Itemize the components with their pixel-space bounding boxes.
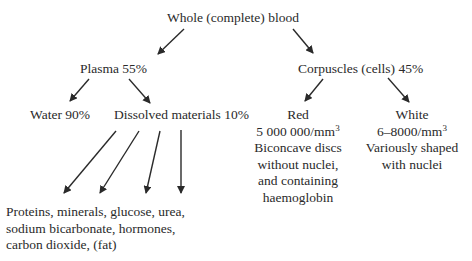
node-corpuscles: Corpuscles (cells) 45% (298, 61, 423, 78)
red-desc: haemoglobin (248, 190, 348, 207)
node-red: Red 5 000 000/mm3 Biconcave discs withou… (248, 107, 348, 206)
red-count: 5 000 000/mm3 (248, 124, 348, 141)
node-dissolved: Dissolved materials 10% (114, 107, 249, 124)
white-desc: with nuclei (357, 157, 467, 174)
dissolved-contents: Proteins, minerals, glucose, urea, sodiu… (6, 204, 185, 254)
node-water: Water 90% (30, 107, 90, 124)
white-count: 6–8000/mm3 (357, 124, 467, 141)
contents-line: carbon dioxide, (fat) (6, 237, 185, 254)
node-whole-blood: Whole (complete) blood (167, 10, 299, 27)
node-white: White 6–8000/mm3 Variously shaped with n… (357, 107, 467, 173)
red-title: Red (248, 107, 348, 124)
node-plasma: Plasma 55% (80, 61, 147, 78)
arrow-blood-plasma (158, 29, 184, 54)
arrow-blood-corpuscles (293, 29, 313, 53)
white-desc: Variously shaped (357, 140, 467, 157)
white-title: White (357, 107, 467, 124)
arrow-dissolved-1 (64, 131, 116, 193)
red-desc: and containing (248, 173, 348, 190)
arrow-corpuscles-red (305, 79, 323, 101)
arrow-dissolved-3 (146, 131, 160, 193)
red-desc: Biconcave discs (248, 140, 348, 157)
contents-line: sodium bicarbonate, hormones, (6, 221, 185, 238)
arrow-dissolved-2 (100, 131, 139, 193)
contents-line: Proteins, minerals, glucose, urea, (6, 204, 185, 221)
arrow-plasma-water (70, 79, 89, 101)
arrow-corpuscles-white (388, 78, 409, 102)
red-desc: without nuclei, (248, 157, 348, 174)
arrow-plasma-dissolved (129, 79, 150, 103)
